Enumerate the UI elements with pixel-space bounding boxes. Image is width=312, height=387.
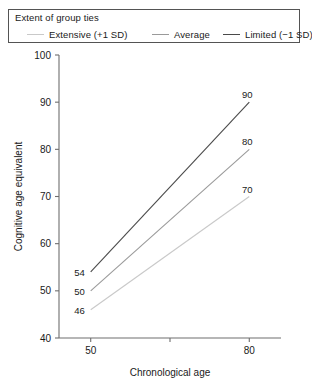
series-group (91, 102, 250, 310)
legend-swatch-extensive (27, 34, 44, 35)
data-point-label: 54 (74, 267, 85, 278)
y-tick-label: 40 (40, 333, 52, 344)
legend-swatch-average (152, 34, 169, 35)
plot-area: 405060708090100 5080 545046908070 Chrono… (0, 44, 312, 387)
legend-swatch-limited (223, 34, 240, 35)
x-tick-group: 5080 (85, 338, 255, 356)
legend-item-average: Average (152, 26, 210, 42)
x-tick-label: 80 (244, 345, 256, 356)
data-point-label: 46 (74, 305, 85, 316)
y-tick-label: 90 (40, 97, 52, 108)
y-tick-group: 405060708090100 (34, 50, 59, 344)
legend-item-extensive: Extensive (+1 SD) (27, 26, 128, 42)
series-line-0 (91, 197, 250, 310)
data-point-label: 80 (242, 136, 253, 147)
legend-item-limited: Limited (−1 SD) (223, 26, 312, 42)
data-point-label: 50 (74, 286, 85, 297)
series-line-2 (91, 102, 250, 272)
legend-title: Extent of group ties (15, 12, 99, 23)
legend-label-extensive: Extensive (+1 SD) (49, 29, 128, 40)
y-tick-label: 80 (40, 144, 52, 155)
chart-figure: Extent of group ties Extensive (+1 SD) A… (0, 0, 312, 387)
y-tick-label: 60 (40, 238, 52, 249)
legend-label-limited: Limited (−1 SD) (245, 29, 312, 40)
series-line-1 (91, 149, 250, 291)
data-point-label: 70 (242, 184, 253, 195)
y-tick-label: 100 (34, 50, 51, 61)
legend-label-average: Average (174, 29, 210, 40)
chart-legend: Extent of group ties Extensive (+1 SD) A… (8, 9, 300, 43)
y-axis-title: Cognitive age equivalent (13, 142, 24, 252)
data-point-label: 90 (242, 89, 253, 100)
y-tick-label: 50 (40, 285, 52, 296)
y-tick-label: 70 (40, 191, 52, 202)
legend-items: Extensive (+1 SD) Average Limited (−1 SD… (13, 26, 297, 42)
x-tick-label: 50 (85, 345, 97, 356)
x-axis-title: Chronological age (130, 367, 211, 378)
